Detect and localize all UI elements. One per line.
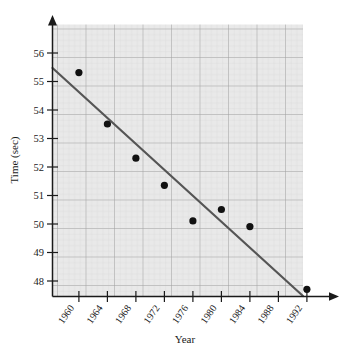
chart-canvas: 48 49 50 51 52 53 54 55 56 1960 1964 196… (0, 0, 340, 359)
x-axis-title: Year (175, 333, 196, 345)
y-tick-label: 50 (34, 219, 45, 230)
x-tick-label: 1988 (255, 303, 275, 326)
y-tick-label: 48 (34, 276, 45, 287)
data-point (161, 182, 168, 189)
y-tick-label: 52 (34, 162, 45, 173)
y-tick-label: 51 (34, 190, 45, 201)
x-tick-label: 1984 (227, 303, 247, 326)
x-tick-label: 1968 (113, 303, 133, 326)
data-point (189, 217, 196, 224)
y-tick-label: 54 (34, 105, 45, 116)
x-axis-tick-labels: 1960 1964 1968 1972 1976 1980 1984 1988 … (56, 303, 304, 326)
x-tick-label: 1972 (141, 303, 161, 326)
y-axis-tick-labels: 48 49 50 51 52 53 54 55 56 (34, 48, 45, 287)
x-tick-label: 1960 (56, 303, 76, 326)
y-tick-label: 49 (34, 247, 45, 258)
x-tick-label: 1980 (198, 303, 218, 326)
data-point (246, 223, 253, 230)
y-tick-label: 53 (34, 133, 45, 144)
grid-background (53, 25, 304, 297)
data-point (75, 69, 82, 76)
data-point (218, 206, 225, 213)
x-tick-label: 1964 (84, 303, 104, 326)
data-point (132, 155, 139, 162)
y-tick-label: 55 (34, 76, 45, 87)
data-point (104, 120, 111, 127)
plot-area (53, 25, 304, 297)
y-axis-title: Time (sec) (8, 136, 21, 183)
scatter-chart: 48 49 50 51 52 53 54 55 56 1960 1964 196… (0, 0, 340, 359)
y-tick-label: 56 (34, 48, 45, 59)
x-tick-label: 1992 (284, 303, 304, 326)
x-tick-label: 1976 (170, 303, 190, 326)
